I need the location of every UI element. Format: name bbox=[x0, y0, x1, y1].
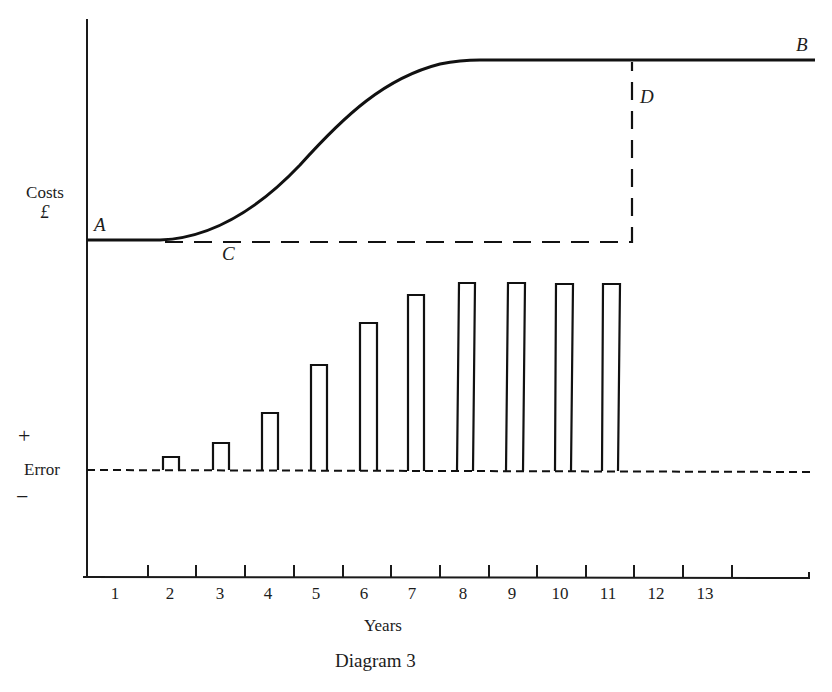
x-axis bbox=[83, 577, 810, 578]
x-tick-label: 12 bbox=[648, 584, 665, 604]
point-label-A: A bbox=[94, 214, 106, 236]
point-label-C: C bbox=[222, 243, 235, 265]
error-bars bbox=[163, 283, 620, 471]
error-bar-year-8 bbox=[457, 283, 475, 471]
x-tick-label: 8 bbox=[459, 584, 468, 604]
error-bar-year-3 bbox=[213, 443, 229, 470]
error-baseline bbox=[87, 470, 810, 472]
pound-symbol: £ bbox=[22, 202, 68, 223]
error-axis-label: Error bbox=[24, 460, 60, 480]
dashed-step-CD bbox=[165, 62, 632, 242]
cost-curve-AB bbox=[87, 60, 815, 240]
x-tick-label: 3 bbox=[216, 584, 225, 604]
error-bar-year-7 bbox=[408, 295, 424, 471]
x-axis-ticks bbox=[148, 565, 809, 578]
diagram-caption: Diagram 3 bbox=[335, 650, 416, 672]
error-minus-label: − bbox=[16, 484, 28, 510]
x-tick-label: 2 bbox=[166, 584, 175, 604]
costs-label: Costs bbox=[22, 183, 68, 203]
point-label-D: D bbox=[640, 86, 654, 108]
error-bar-year-10 bbox=[555, 284, 573, 471]
x-tick-label: 7 bbox=[408, 584, 417, 604]
x-tick-label: 4 bbox=[264, 584, 273, 604]
x-tick-label: 13 bbox=[697, 584, 714, 604]
error-bar-year-5 bbox=[311, 365, 327, 471]
x-tick-label: 11 bbox=[600, 584, 616, 604]
x-tick-label: 10 bbox=[552, 584, 569, 604]
y-axis-label-costs: Costs £ bbox=[22, 183, 68, 223]
x-tick-label: 1 bbox=[111, 584, 120, 604]
error-bar-year-4 bbox=[262, 413, 278, 470]
error-bar-year-11 bbox=[602, 284, 620, 471]
error-bar-year-6 bbox=[360, 323, 377, 471]
x-axis-title: Years bbox=[364, 616, 402, 636]
error-bar-year-9 bbox=[506, 283, 525, 471]
x-tick-label: 9 bbox=[508, 584, 517, 604]
point-label-B: B bbox=[796, 34, 808, 56]
x-tick-label: 6 bbox=[360, 584, 369, 604]
error-plus-label: + bbox=[18, 423, 30, 449]
error-bar-year-2 bbox=[163, 457, 179, 470]
x-tick-label: 5 bbox=[312, 584, 321, 604]
